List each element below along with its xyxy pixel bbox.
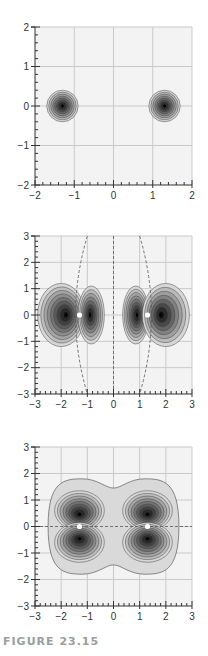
svg-text:1: 1 [137, 611, 143, 622]
svg-text:1: 1 [23, 283, 29, 294]
svg-text:1: 1 [23, 61, 29, 72]
svg-text:−1: −1 [18, 336, 30, 347]
svg-text:0: 0 [111, 190, 117, 201]
svg-text:1: 1 [23, 495, 29, 506]
svg-text:3: 3 [189, 611, 195, 622]
svg-text:0: 0 [23, 521, 29, 532]
svg-text:2: 2 [23, 22, 29, 33]
svg-text:3: 3 [189, 399, 195, 410]
figure-caption: FIGURE 23.15 [3, 635, 99, 648]
svg-text:−1: −1 [69, 190, 81, 201]
svg-text:3: 3 [23, 442, 29, 453]
svg-text:−3: −3 [18, 389, 30, 400]
svg-text:2: 2 [163, 399, 169, 410]
svg-text:2: 2 [23, 468, 29, 479]
svg-text:−2: −2 [18, 574, 30, 585]
nucleus-marker [145, 312, 150, 317]
svg-text:2: 2 [189, 190, 195, 201]
svg-text:−1: −1 [82, 399, 94, 410]
plot-panel-1s: −2−1012−2−1012 [18, 22, 196, 202]
svg-text:2: 2 [23, 257, 29, 268]
svg-text:−1: −1 [18, 548, 30, 559]
svg-text:1: 1 [150, 190, 156, 201]
plot-panel-p-sigma: −3−2−10123−3−2−10123 [18, 231, 196, 411]
svg-text:0: 0 [23, 310, 29, 321]
svg-text:2: 2 [163, 611, 169, 622]
nucleus-marker [77, 312, 82, 317]
plot-panel-p-pi: −3−2−10123−3−2−10123 [18, 442, 196, 623]
svg-text:−2: −2 [55, 399, 67, 410]
svg-text:−2: −2 [55, 611, 67, 622]
svg-text:−3: −3 [29, 611, 41, 622]
svg-text:−2: −2 [18, 362, 30, 373]
svg-text:−1: −1 [82, 611, 94, 622]
svg-text:1: 1 [137, 399, 143, 410]
svg-text:−3: −3 [29, 399, 41, 410]
svg-text:0: 0 [111, 399, 117, 410]
figure: −2−1012−2−1012 −3−2−10123−3−2−10123 −3−2… [0, 0, 208, 656]
nucleus-marker [77, 524, 82, 529]
svg-text:3: 3 [23, 231, 29, 242]
svg-text:0: 0 [111, 611, 117, 622]
svg-text:−2: −2 [29, 190, 41, 201]
svg-text:−1: −1 [18, 140, 30, 151]
svg-text:−3: −3 [18, 601, 30, 612]
svg-text:−2: −2 [18, 180, 30, 191]
nucleus-marker [145, 524, 150, 529]
svg-text:0: 0 [23, 101, 29, 112]
